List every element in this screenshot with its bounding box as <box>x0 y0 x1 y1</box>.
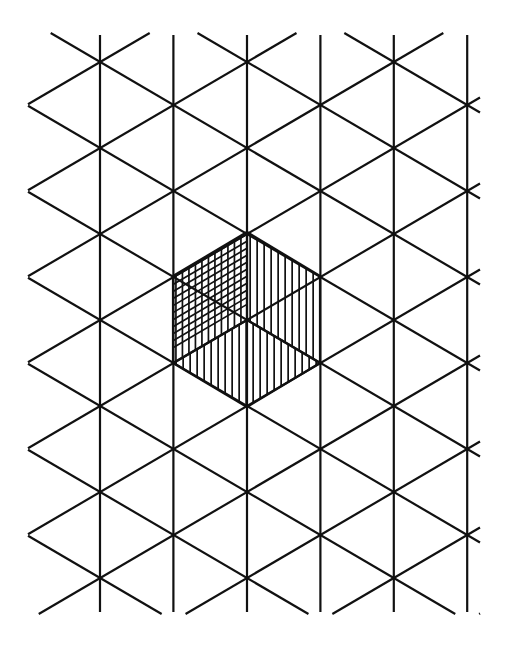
grid-line-up-right-14 <box>479 614 480 615</box>
triangular-lattice-figure <box>0 0 507 654</box>
figure-root <box>0 0 507 654</box>
